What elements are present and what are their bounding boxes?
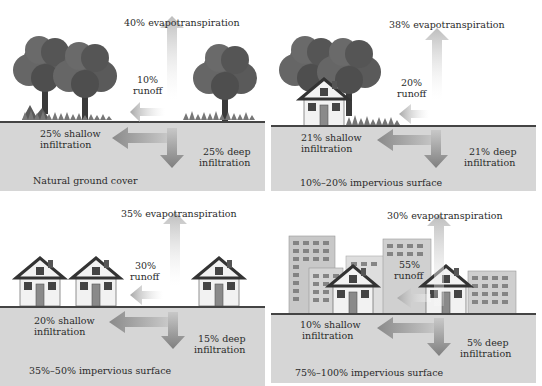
shallow-infiltration-arrow-icon [377,317,436,339]
panel-caption: 10%–20% impervious surface [300,177,442,188]
evapotranspiration-arrow-icon [425,28,449,100]
runoff-arrow-icon [130,285,163,305]
evapotranspiration-arrow-icon [427,214,451,306]
runoff-label: runoff [397,88,426,99]
panel-medium-impervious: 35% evapotranspiration 30% runoff 20% sh… [0,196,265,376]
evapotranspiration-label: 30% evapotranspiration [387,210,503,221]
runoff-label: runoff [394,270,423,281]
panel-caption: Natural ground cover [33,175,137,186]
shallow-infiltration-percent: 21% shallow [301,132,362,143]
shallow-infiltration-arrow-icon [377,129,436,151]
evapotranspiration-label: 38% evapotranspiration [389,19,505,30]
shallow-infiltration-arrow-icon [109,311,168,333]
runoff-percent: 10% [137,74,158,85]
runoff-percent: 30% [135,260,156,271]
runoff-percent: 20% [401,77,422,88]
shallow-infiltration-label: infiltration [40,139,91,150]
flow-arrows [0,196,265,386]
shallow-infiltration-percent: 20% shallow [34,315,95,326]
evapotranspiration-arrow-icon [163,212,187,286]
shallow-infiltration-percent: 10% shallow [300,319,361,330]
runoff-arrow-icon [397,288,431,308]
deep-infiltration-label: infiltration [199,157,250,168]
panel-low-impervious: 38% evapotranspiration 20% runoff 21% sh… [271,0,536,180]
runoff-label: runoff [130,271,159,282]
shallow-infiltration-label: infiltration [301,143,352,154]
panel-caption: 35%–50% impervious surface [29,365,171,376]
shallow-infiltration-label: infiltration [34,326,85,337]
evapotranspiration-label: 40% evapotranspiration [124,17,240,28]
evapotranspiration-label: 35% evapotranspiration [121,208,237,219]
deep-infiltration-percent: 15% deep [198,333,246,344]
panel-high-impervious: 30% evapotranspiration 55% runoff 10% sh… [271,196,536,376]
panel-natural-ground-cover: 40% evapotranspiration 10% runoff 25% sh… [0,0,265,180]
deep-infiltration-percent: 21% deep [469,146,517,157]
deep-infiltration-label: infiltration [460,348,511,359]
runoff-percent: 55% [399,259,420,270]
panel-caption: 75%–100% impervious surface [295,367,443,378]
runoff-arrow-icon [399,104,429,124]
deep-infiltration-label: infiltration [464,157,515,168]
evapotranspiration-arrow-icon [160,16,184,100]
shallow-infiltration-label: infiltration [302,330,353,341]
deep-infiltration-percent: 25% deep [203,146,251,157]
shallow-infiltration-percent: 25% shallow [40,128,101,139]
runoff-label: runoff [133,85,162,96]
shallow-infiltration-arrow-icon [112,127,168,149]
deep-infiltration-percent: 5% deep [467,337,509,348]
deep-infiltration-label: infiltration [194,344,245,355]
runoff-arrow-icon [130,102,165,122]
